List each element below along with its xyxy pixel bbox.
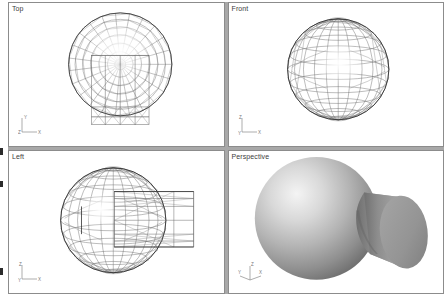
front-axis-origin-label: Y xyxy=(238,131,241,136)
viewport-front-label: Front xyxy=(232,4,249,13)
viewport-front[interactable]: Front Z X Y xyxy=(228,2,445,147)
perspective-axis-gizmo: Z X Y xyxy=(238,260,264,284)
toolbar-edge-mark-top xyxy=(0,148,3,155)
left-axis-origin-label: Y xyxy=(18,278,21,283)
viewport-perspective[interactable]: Perspective Z X Y xyxy=(228,150,445,295)
perspective-axis-up-label: Z xyxy=(251,262,254,267)
viewport-grid: Top Y X Z xyxy=(8,2,444,294)
top-axis-right-label: X xyxy=(38,130,41,135)
front-axis-gizmo: Z X Y xyxy=(238,113,264,137)
top-axis-gizmo: Y X Z xyxy=(18,113,44,137)
viewport-left[interactable]: Left Z X Y xyxy=(8,150,225,295)
viewport-top-label: Top xyxy=(12,4,24,13)
viewport-top[interactable]: Top Y X Z xyxy=(8,2,225,147)
left-axis-up-label: Z xyxy=(19,262,22,267)
top-axis-up-label: Y xyxy=(24,115,27,120)
left-axis-gizmo: Z X Y xyxy=(18,260,44,284)
front-axis-right-label: X xyxy=(258,130,261,135)
viewport-perspective-label: Perspective xyxy=(232,152,270,161)
viewport-left-label: Left xyxy=(12,152,24,161)
left-axis-right-label: X xyxy=(38,277,41,282)
perspective-axis-origin-label: Y xyxy=(238,270,241,275)
front-axis-up-label: Z xyxy=(239,115,242,120)
viewport-workspace: Top Y X Z xyxy=(0,0,446,298)
toolbar-edge-mark-mid xyxy=(0,181,3,187)
perspective-axis-right-label: X xyxy=(259,270,262,275)
toolbar-edge-mark-bottom xyxy=(0,268,3,275)
top-axis-origin-label: Z xyxy=(18,130,21,135)
